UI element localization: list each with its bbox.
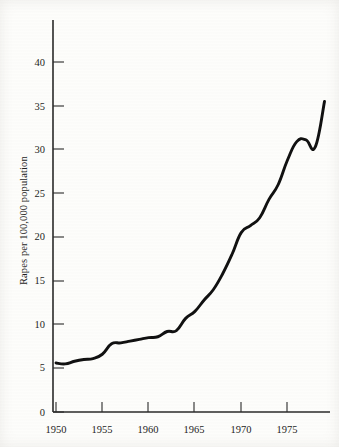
y-axis-label: Rapes per 100,000 population bbox=[18, 156, 29, 285]
chart-figure: Rapes per 100,000 population 40 35 30 25… bbox=[0, 0, 339, 447]
y-tick-label-15: 15 bbox=[35, 275, 46, 286]
y-tick-label-0: 0 bbox=[40, 407, 45, 418]
x-tick-label-1970: 1970 bbox=[231, 424, 252, 435]
x-tick-label-1965: 1965 bbox=[184, 424, 205, 435]
y-tick-label-30: 30 bbox=[35, 144, 46, 155]
y-tick-label-10: 10 bbox=[35, 319, 46, 330]
x-tick-label-1960: 1960 bbox=[138, 424, 159, 435]
x-tick-label-1950: 1950 bbox=[46, 424, 67, 435]
line-chart-svg: Rapes per 100,000 population 40 35 30 25… bbox=[0, 0, 339, 447]
x-tick-label-1975: 1975 bbox=[277, 424, 298, 435]
y-tick-label-5: 5 bbox=[40, 362, 45, 373]
data-series-line bbox=[56, 101, 325, 364]
x-tick-label-1955: 1955 bbox=[92, 424, 113, 435]
y-tick-label-20: 20 bbox=[35, 231, 46, 242]
y-tick-label-25: 25 bbox=[35, 188, 46, 199]
y-tick-label-35: 35 bbox=[35, 101, 46, 112]
y-tick-label-40: 40 bbox=[35, 57, 46, 68]
